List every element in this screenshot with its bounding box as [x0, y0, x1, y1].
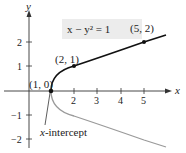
point-5-2: [142, 40, 146, 44]
equation-label: x − y² = 1: [67, 23, 110, 35]
x-intercept-leader: [45, 93, 50, 125]
chart-svg: x − y² = 1 y x 2 3 4 5 2 1 −1 −2 (1, 0) …: [0, 0, 186, 153]
x-axis-arrow-icon: [165, 89, 172, 94]
x-axis-label: x: [174, 84, 180, 96]
x-tick-4: 4: [118, 95, 123, 106]
point-label-5-2: (5, 2): [130, 22, 154, 35]
y-tick-m2: −2: [11, 134, 22, 145]
x-tick-3: 3: [94, 95, 99, 106]
point-label-1-0: (1, 0): [29, 78, 53, 91]
x-tick-5: 5: [141, 95, 146, 106]
chart-figure: x − y² = 1 y x 2 3 4 5 2 1 −1 −2 (1, 0) …: [0, 0, 186, 153]
y-tick-1: 1: [17, 61, 22, 72]
y-tick-m1: −1: [11, 110, 22, 121]
y-tick-2: 2: [17, 37, 22, 48]
y-axis-label: y: [25, 0, 31, 12]
x-tick-2: 2: [71, 95, 76, 106]
point-label-2-1: (2, 1): [55, 53, 79, 66]
x-intercept-label: x-intercept: [39, 126, 87, 138]
lower-branch-curve: [51, 91, 166, 147]
